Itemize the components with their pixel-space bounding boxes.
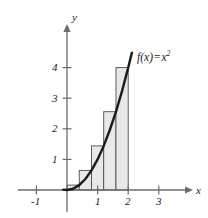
y-tick-label-3: 3 <box>52 93 58 104</box>
x-tick-label-3: 3 <box>156 196 162 207</box>
riemann-sum-figure: -1 1 2 3 1 2 3 4 x y f(x)=x2 <box>0 0 208 218</box>
x-tick-label-2: 2 <box>125 196 131 207</box>
y-tick-label-2: 2 <box>52 123 58 134</box>
function-argument: (x) <box>140 51 153 63</box>
riemann-rectangle <box>104 112 116 190</box>
x-axis-label: x <box>196 185 201 196</box>
y-axis-label: y <box>72 12 77 23</box>
x-tick-label-1: 1 <box>95 196 101 207</box>
riemann-rectangle <box>116 68 128 190</box>
function-equation-label: f(x)=x2 <box>137 52 170 64</box>
plot-canvas <box>0 0 208 218</box>
riemann-rectangles <box>67 68 128 190</box>
y-axis <box>63 24 70 212</box>
exponent-two: 2 <box>167 49 171 58</box>
y-tick-label-4: 4 <box>52 62 58 73</box>
x-tick-label--1: -1 <box>31 196 40 207</box>
y-tick-label-1: 1 <box>52 154 58 165</box>
